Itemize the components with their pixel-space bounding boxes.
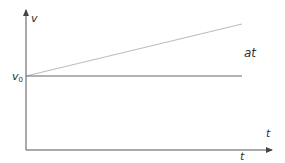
velocity-line <box>26 24 242 76</box>
at-label: at <box>244 46 257 60</box>
y-axis-label: v <box>31 12 38 25</box>
t-axis-label-upper: t <box>266 127 271 140</box>
velocity-time-diagram: v v0 at t t <box>0 0 285 163</box>
v0-label: v0 <box>12 70 23 84</box>
t-axis-label-lower: t <box>240 150 245 163</box>
